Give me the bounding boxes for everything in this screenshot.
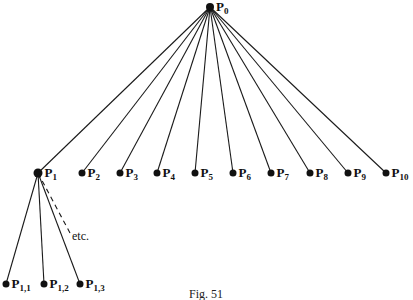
node-p10	[383, 170, 390, 177]
node-p6	[230, 170, 237, 177]
edges	[6, 7, 386, 284]
node-p4	[154, 170, 161, 177]
node-label: P3	[126, 165, 139, 182]
node-p1-3	[77, 281, 84, 288]
edge-p0-p7	[210, 7, 271, 173]
node-label: P10	[392, 165, 409, 182]
tree-diagram: P0P1P2P3P4P5P6P7P8P9P10P1,1P1,2P1,3 etc.…	[0, 0, 413, 300]
node-label: P6	[239, 165, 252, 182]
node-p1-1	[3, 281, 10, 288]
nodes	[3, 3, 390, 288]
node-label: P9	[354, 165, 367, 182]
node-label: P7	[277, 165, 290, 182]
edge-p0-p2	[82, 7, 210, 173]
node-p9	[345, 170, 352, 177]
node-p3	[117, 170, 124, 177]
continuation-label: etc.	[72, 229, 89, 243]
node-label: P0	[216, 0, 229, 16]
node-label: P2	[88, 165, 101, 182]
edge-p1-p1-2	[38, 173, 44, 284]
node-label: P1,3	[86, 276, 106, 293]
node-label: P1,2	[50, 276, 70, 293]
edge-p0-p1	[38, 7, 210, 173]
node-label: P8	[316, 165, 329, 182]
node-p7	[268, 170, 275, 177]
node-p0	[206, 3, 214, 11]
node-label: P1,1	[12, 276, 32, 293]
edge-p0-p6	[210, 7, 233, 173]
node-label: P4	[163, 165, 176, 182]
edge-continuation-dashed	[38, 173, 70, 233]
figure-caption: Fig. 51	[189, 287, 223, 300]
node-label: P1	[45, 165, 58, 182]
node-p1	[34, 169, 43, 178]
labels: P0P1P2P3P4P5P6P7P8P9P10P1,1P1,2P1,3	[12, 0, 409, 293]
node-p2	[79, 170, 86, 177]
node-label: P5	[201, 165, 214, 182]
node-p5	[192, 170, 199, 177]
node-p1-2	[41, 281, 48, 288]
node-p8	[307, 170, 314, 177]
edge-p1-p1-1	[6, 173, 38, 284]
edge-p0-p8	[210, 7, 310, 173]
edge-p0-p10	[210, 7, 386, 173]
edge-p0-p9	[210, 7, 348, 173]
